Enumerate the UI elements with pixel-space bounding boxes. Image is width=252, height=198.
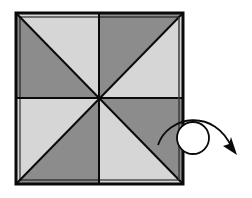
arrowhead-icon [223, 137, 237, 155]
diagram-canvas [0, 0, 252, 198]
turn-over-circle [177, 122, 209, 154]
pinwheel-diagram [0, 0, 252, 198]
pinwheel-square [16, 13, 183, 184]
